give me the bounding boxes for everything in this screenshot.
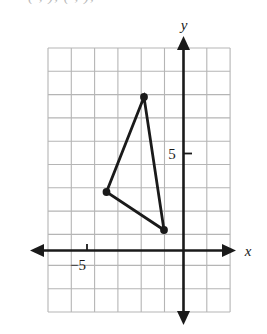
y-axis-arrow-up (177, 36, 190, 50)
tick-marks (87, 154, 192, 252)
x-axis-label: x (244, 243, 252, 259)
coordinate-plane: −5 5 x y (0, 0, 267, 334)
x-axis-arrow-left (30, 244, 44, 257)
y-axis-label: y (179, 17, 188, 33)
vertex-point-bottom-right (160, 226, 168, 234)
vertex-point-left (103, 188, 111, 196)
triangle-shape (107, 97, 165, 230)
axes-lines (36, 42, 228, 318)
x-axis-arrow-right (222, 244, 236, 257)
vertex-point-top (140, 93, 148, 101)
graph-figure: ( , ), ( , ), (0, 0, 267, 334)
y-axis-arrow-down (177, 311, 190, 325)
x-tick-label-minus5: −5 (70, 257, 86, 273)
vertex-points (103, 93, 168, 234)
axis-arrowheads (30, 36, 236, 325)
y-tick-label-5: 5 (168, 146, 176, 162)
